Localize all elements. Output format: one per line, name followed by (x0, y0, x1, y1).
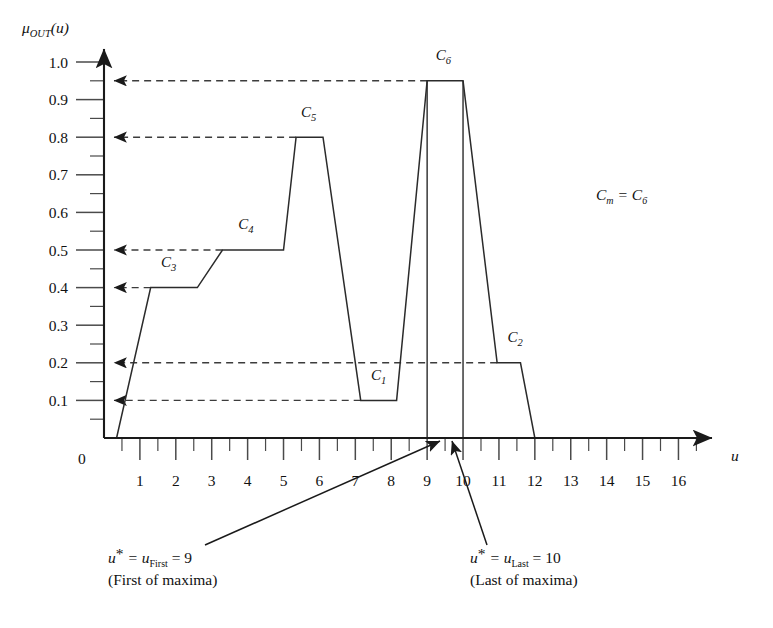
x-tick-label: 3 (208, 472, 216, 489)
x-tick-label: 11 (491, 472, 506, 489)
cluster-label-c1: C1 (371, 367, 386, 386)
cluster-label-c6: C6 (436, 47, 452, 66)
maxima-droplines (427, 81, 463, 438)
cluster-labels: C1C2C3C4C5C6 (161, 47, 523, 386)
x-axis-ticks (122, 438, 696, 460)
y-tick-label: 0.3 (49, 317, 69, 334)
x-tick-label: 8 (387, 472, 395, 489)
x-tick-label: 2 (172, 472, 180, 489)
cluster-label-c5: C5 (301, 104, 316, 123)
y-axis-tick-labels: 0.10.20.30.40.50.60.70.80.91.0 (49, 54, 69, 409)
y-tick-label: 0.5 (49, 242, 69, 259)
x-tick-label: 16 (671, 472, 687, 489)
x-tick-label: 5 (280, 472, 288, 489)
last-maxima-pointer (452, 441, 487, 545)
leader-lines (114, 81, 497, 401)
origin-label: 0 (78, 450, 86, 467)
y-tick-label: 0.9 (49, 91, 69, 108)
x-tick-label: 12 (527, 472, 543, 489)
first-maxima-pointer (205, 441, 440, 545)
y-axis-ticks (76, 62, 104, 419)
first-maxima-label: u* = uFirst = 9 (108, 545, 192, 569)
x-tick-label: 9 (423, 472, 431, 489)
membership-curve (117, 81, 535, 438)
cluster-label-c3: C3 (161, 254, 176, 273)
y-tick-label: 0.6 (49, 204, 69, 221)
x-tick-label: 14 (599, 472, 615, 489)
x-tick-label: 13 (563, 472, 579, 489)
y-axis-title: μOUT(u) (21, 19, 69, 39)
defuzzification-figure: 12345678910111213141516 0.10.20.30.40.50… (0, 0, 773, 628)
x-tick-label: 7 (351, 472, 359, 489)
last-maxima-sublabel: (Last of maxima) (470, 571, 578, 589)
x-axis-title: u (731, 447, 739, 464)
y-tick-label: 0.8 (49, 129, 69, 146)
x-tick-label: 4 (244, 472, 252, 489)
last-maxima-label: u* = uLast = 10 (470, 545, 561, 569)
cm-equals-c6-annotation: Cm = C6 (596, 186, 647, 206)
y-tick-label: 0.1 (49, 392, 68, 409)
cluster-label-c2: C2 (507, 329, 523, 348)
cluster-label-c4: C4 (238, 216, 254, 235)
x-tick-label: 1 (136, 472, 144, 489)
x-tick-label: 6 (316, 472, 324, 489)
first-maxima-sublabel: (First of maxima) (108, 571, 217, 589)
y-tick-label: 1.0 (49, 54, 69, 71)
y-tick-label: 0.4 (49, 279, 69, 296)
y-tick-label: 0.2 (49, 354, 68, 371)
y-tick-label: 0.7 (49, 166, 69, 183)
x-axis-tick-labels: 12345678910111213141516 (136, 472, 686, 489)
x-tick-label: 15 (635, 472, 651, 489)
